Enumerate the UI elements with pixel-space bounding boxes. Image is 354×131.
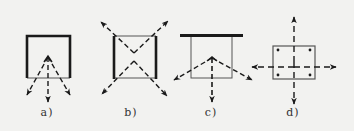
dashed-arrow-icon <box>27 57 48 95</box>
panel-c-label: c) <box>205 106 217 119</box>
corner-dot-icon <box>309 74 312 77</box>
panel-d-label: d) <box>286 106 299 119</box>
corner-dot-icon <box>309 49 312 52</box>
panel-a <box>27 36 70 102</box>
dashed-arrow-icon <box>174 58 212 80</box>
panel-b-label: b) <box>124 106 137 119</box>
dashed-arrow-icon <box>101 22 134 53</box>
panel-d <box>252 17 336 104</box>
dashed-arrow-icon <box>48 57 70 95</box>
panel-c <box>174 36 252 103</box>
corner-dot-icon <box>277 74 280 77</box>
corner-dot-icon <box>277 49 280 52</box>
panel-a-label: a) <box>41 106 54 119</box>
panel-b <box>101 21 168 96</box>
dashed-arrow-icon <box>134 21 168 53</box>
diagram-figure: a) b) c) d) <box>0 0 354 131</box>
